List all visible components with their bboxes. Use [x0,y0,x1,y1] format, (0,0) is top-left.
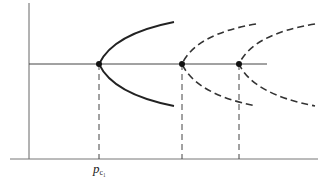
bifurcation-point-pc1 [96,61,102,67]
bifurcation-point-pc3 [236,61,242,67]
critical-point-label: pc₁ [92,161,106,177]
dashed-branch-pc2 [182,24,256,106]
dashed-branch-pc3 [239,24,315,106]
bifurcation-diagram: pc₁ [0,0,335,182]
bifurcation-point-pc2 [179,61,185,67]
